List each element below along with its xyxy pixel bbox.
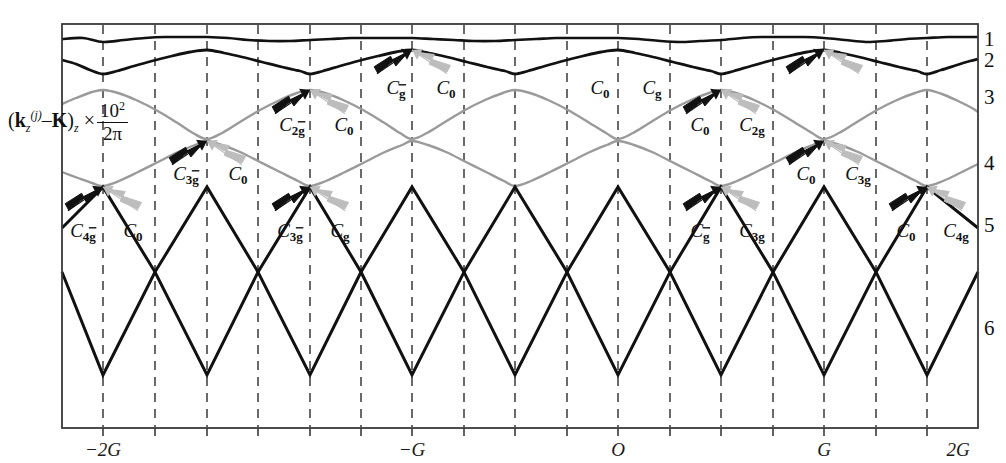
coefficient-label-text: C0 (334, 114, 353, 138)
arrow-bolt-glyph (725, 92, 760, 112)
scatter-arrow-marker (927, 186, 966, 211)
x-axis-tick-labels: −2G−GOG2G (85, 439, 970, 460)
coefficient-label-a13: C4g (70, 220, 96, 244)
coefficient-label-text: C3g (739, 220, 765, 244)
coefficient-label-text: C0 (123, 220, 142, 244)
coefficient-label-a3: C0 (590, 77, 609, 101)
coefficient-label-a8: C2g (739, 114, 765, 138)
coefficient-label-text: C3g (173, 163, 199, 187)
x-tick-label: G (817, 439, 831, 460)
coefficient-label-a5: C2g (279, 114, 305, 138)
coefficient-label-text: C0 (690, 114, 709, 138)
coefficient-label-a15: C3g (277, 220, 303, 244)
arrow-bolt-glyph (828, 143, 863, 163)
coefficient-label-a19: C0 (896, 220, 915, 244)
coefficient-label-text: Cg (386, 77, 406, 101)
x-axis-ticks (103, 428, 927, 436)
coefficient-label-text: Cg (642, 77, 662, 101)
coefficient-label-a17: Cg (690, 220, 710, 244)
coefficient-label-a20: C4g (943, 220, 969, 244)
branch-curve-5 (62, 187, 978, 272)
coefficient-label-text: Cg (330, 220, 350, 244)
branch-number-6: 6 (984, 316, 995, 340)
coefficient-label-text: C3g (845, 163, 871, 187)
coefficient-label-a2: C0 (436, 77, 455, 101)
y-axis-label: (kz(j)–K)z ×1022π (8, 100, 188, 144)
coefficient-label-a11: C0 (796, 163, 815, 187)
x-tick-label: −2G (85, 439, 121, 460)
coefficient-label-text: C3g (277, 220, 303, 244)
coefficient-label-text: C0 (896, 220, 915, 244)
y-axis-label-fraction: 1022π (97, 100, 128, 144)
coefficient-label-text: C2g (279, 114, 305, 138)
grid-layer (103, 25, 927, 427)
coefficient-label-text: C2g (739, 114, 765, 138)
coefficient-label-a1: Cg (386, 77, 406, 101)
figure-root: −2G−GOG2G 123456 CgC0C0CgC2gC0C0C2gC3gC0… (0, 0, 1006, 463)
coefficient-label-a18: C3g (739, 220, 765, 244)
x-tick-label: −G (399, 439, 426, 460)
branch-curve-1 (62, 37, 978, 42)
arrow-bolt-glyph (828, 52, 863, 72)
dispersion-chart: −2G−GOG2G 123456 CgC0C0CgC2gC0C0C2gC3gC0… (0, 0, 1006, 463)
coefficient-label-a14: C0 (123, 220, 142, 244)
arrow-bolt-glyph (931, 189, 966, 209)
coefficient-label-a12: C3g (845, 163, 871, 187)
branch-curve-6 (62, 272, 978, 375)
coefficient-label-text: C4g (943, 220, 969, 244)
fraction-numerator: 102 (97, 100, 128, 123)
branch-number-5: 5 (984, 213, 995, 237)
curves-layer (62, 37, 978, 375)
branch-curve-3 (62, 90, 978, 139)
branch-number-3: 3 (984, 85, 995, 109)
coefficient-annotations: CgC0C0CgC2gC0C0C2gC3gC0C0C3gC4gC0C3gCgCg… (70, 77, 969, 244)
coefficient-label-text: C0 (796, 163, 815, 187)
x-tick-label: O (611, 439, 625, 460)
coefficient-label-a10: C0 (228, 163, 247, 187)
branch-number-2: 2 (984, 48, 995, 72)
branch-number-4: 4 (984, 151, 995, 175)
scatter-arrow-marker (786, 140, 824, 165)
scatter-arrow-marker (310, 89, 349, 114)
coefficient-label-a16: Cg (330, 220, 350, 244)
y-axis-label-text: (kz(j)–K)z × (8, 109, 95, 131)
coefficient-label-a9: C3g (173, 163, 199, 187)
arrow-bolt-glyph (314, 92, 349, 112)
scatter-arrow-marker (721, 89, 760, 114)
coefficient-label-text: C0 (228, 163, 247, 187)
coefficient-label-a4: Cg (642, 77, 662, 101)
branch-number-labels: 123456 (984, 27, 995, 340)
coefficient-label-text: C4g (70, 220, 96, 244)
x-tick-label: 2G (946, 439, 970, 460)
fraction-denominator: 2π (97, 123, 128, 144)
arrow-bolt-glyph (416, 52, 451, 72)
coefficient-label-a7: C0 (690, 114, 709, 138)
coefficient-label-text: C0 (590, 77, 609, 101)
coefficient-label-a6: C0 (334, 114, 353, 138)
coefficient-label-text: Cg (690, 220, 710, 244)
coefficient-label-text: C0 (436, 77, 455, 101)
